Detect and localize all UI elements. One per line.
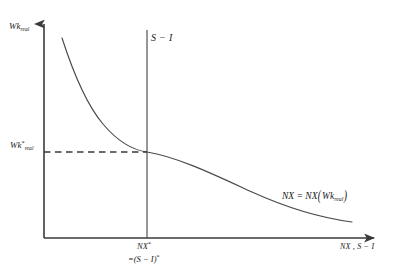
x-axis-label: NX , S − I <box>340 243 374 251</box>
diagram-canvas <box>0 0 395 276</box>
economics-diagram: Wkreal S − I Wk*real NX = NX(Wkreal) NX*… <box>0 0 395 276</box>
savings-investment-line-label: S − I <box>151 33 173 43</box>
equilibrium-quantity-label-line1: NX* <box>137 242 151 251</box>
net-exports-curve-label: NX = NX(Wkreal) <box>282 188 348 202</box>
y-axis-label: Wkreal <box>9 22 29 31</box>
equilibrium-quantity-label-line2: =(S − I)* <box>128 255 159 264</box>
equilibrium-wage-label: Wk*real <box>10 141 33 150</box>
